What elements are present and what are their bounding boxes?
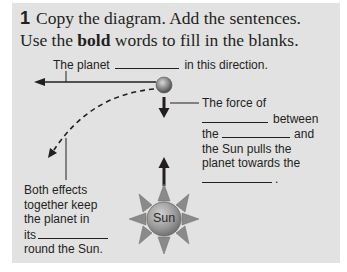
planet-icon bbox=[156, 77, 172, 93]
blank-2 bbox=[202, 111, 268, 123]
force-label: The force of between the and the Sun pul… bbox=[202, 96, 318, 186]
top-label: The planet in this direction. bbox=[53, 57, 268, 73]
blank-3 bbox=[222, 126, 290, 138]
effects-label: Both effects together keep the planet in… bbox=[24, 183, 108, 257]
dashed-path-arrow bbox=[48, 89, 154, 158]
gravity-up-arrow bbox=[159, 157, 170, 186]
blank-4 bbox=[202, 171, 272, 183]
blank-1 bbox=[115, 57, 179, 69]
sun-label: Sun bbox=[148, 211, 180, 226]
motion-arrow bbox=[34, 78, 156, 86]
gravity-down-arrow bbox=[159, 97, 170, 118]
blank-5 bbox=[38, 227, 108, 239]
